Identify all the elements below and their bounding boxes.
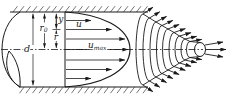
ring-arrow-top	[190, 39, 202, 41]
ring-arrow-bottom	[156, 77, 167, 83]
hatch-stroke	[104, 87, 109, 93]
hatch-stroke	[85, 6, 90, 12]
hatch-stroke	[130, 87, 135, 93]
wall-hatching-top	[13, 6, 148, 12]
hatch-stroke	[98, 6, 103, 12]
hatch-stroke	[91, 87, 96, 93]
hatch-stroke	[46, 87, 51, 93]
hatch-stroke	[39, 6, 44, 12]
hatch-stroke	[20, 87, 25, 93]
label-wall-distance-y: y	[57, 14, 64, 24]
hatch-stroke	[111, 87, 116, 93]
hatch-stroke	[111, 6, 116, 12]
hatch-stroke	[137, 87, 142, 93]
hatch-stroke	[91, 6, 96, 12]
pipe-end-inner-arc-right	[9, 51, 20, 87]
hatch-stroke	[117, 6, 122, 12]
hatch-stroke	[65, 6, 70, 12]
ring-arrow-bottom	[180, 63, 192, 66]
ring-arrow-top	[185, 36, 197, 39]
hatch-stroke	[72, 87, 77, 93]
hatch-stroke	[59, 6, 64, 12]
hatch-stroke	[72, 6, 77, 12]
label-velocity-u: u	[76, 19, 82, 29]
laminar-pipe-flow-diagram: d r0 y r u umax	[0, 0, 227, 107]
ring-arrow-bottom	[168, 70, 179, 74]
vertex-arrow	[205, 42, 223, 45]
hatch-stroke	[117, 87, 122, 93]
ring-arrow-top	[168, 25, 179, 29]
label-radius-r0: r0	[40, 23, 48, 34]
hatch-stroke	[52, 6, 57, 12]
ring-arrow-top	[174, 29, 185, 33]
hatch-stroke	[98, 87, 103, 93]
hatch-stroke	[33, 6, 38, 12]
ring-arrow-bottom	[162, 74, 173, 79]
hatch-stroke	[104, 6, 109, 12]
hatch-stroke	[130, 6, 135, 12]
hatch-stroke	[78, 6, 83, 12]
ring-arrow-top	[162, 20, 173, 25]
cone-silhouette-top	[143, 14, 200, 43]
label-velocity-umax: umax	[88, 40, 107, 51]
pipe-flow-figure: d r0 y r u umax	[0, 0, 227, 107]
hatch-stroke	[85, 87, 90, 93]
hatch-stroke	[26, 87, 31, 93]
hatch-stroke	[33, 87, 38, 93]
ring-arrow-bottom	[150, 81, 160, 87]
ring-arrow-top	[143, 7, 153, 14]
ring-arrow-top	[180, 33, 192, 36]
hatch-stroke	[26, 6, 31, 12]
hatch-stroke	[137, 6, 142, 12]
paraboloid-vertex-ring	[195, 43, 206, 57]
hatch-stroke	[124, 87, 129, 93]
hatch-stroke	[39, 87, 44, 93]
wall-hatching-bottom	[20, 87, 148, 93]
ring-arrow-top	[156, 16, 167, 22]
hatch-stroke	[124, 6, 129, 12]
ring-arrow-bottom	[185, 60, 197, 63]
hatch-stroke	[20, 6, 25, 12]
hatch-stroke	[78, 87, 83, 93]
ring-arrow-bottom	[143, 85, 153, 92]
label-radial-distance-r: r	[54, 32, 59, 42]
ring-arrow-top	[150, 12, 160, 18]
label-diameter-d: d	[24, 43, 30, 54]
hatch-stroke	[13, 6, 18, 12]
vertex-arrows	[205, 42, 226, 57]
ring-arrow-bottom	[190, 58, 202, 60]
hatch-stroke	[59, 87, 64, 93]
hatch-stroke	[46, 6, 51, 12]
hatch-stroke	[52, 87, 57, 93]
hatch-stroke	[65, 87, 70, 93]
cone-silhouette-bottom	[143, 57, 200, 86]
ring-arrow-bottom	[174, 67, 185, 71]
vertex-arrow	[205, 54, 223, 57]
